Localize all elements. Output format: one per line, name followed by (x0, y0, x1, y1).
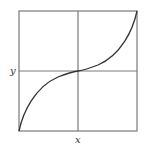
y-axis-label: y (9, 65, 16, 76)
function-plot: y x (0, 0, 146, 149)
x-axis-label: x (75, 134, 81, 145)
